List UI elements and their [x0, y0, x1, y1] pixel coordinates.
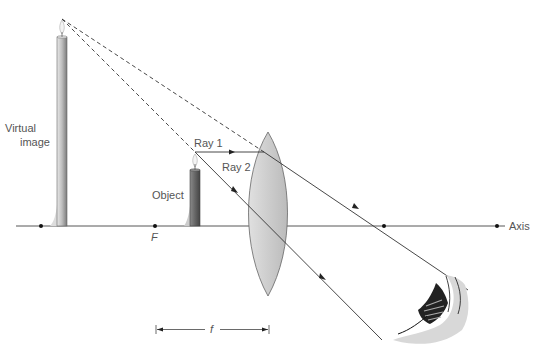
- ray-2: [195, 152, 382, 340]
- object-candle: [184, 154, 200, 226]
- ray-diagram: Virtual image Object Ray 1 Ray 2 F f Axi…: [0, 0, 551, 363]
- ray-1-label: Ray 1: [194, 137, 223, 150]
- virtual-image-label-line2: image: [20, 136, 50, 149]
- focal-length-label: f: [210, 323, 213, 336]
- focal-point-label: F: [151, 231, 158, 244]
- virtual-image-label-line1: Virtual: [5, 122, 36, 135]
- ray-2-label: Ray 2: [222, 161, 251, 174]
- focal-point-dot: [153, 224, 157, 228]
- virtual-image-candle: [50, 20, 67, 226]
- eye-icon: [393, 275, 468, 344]
- virtual-ray-extensions: [62, 19, 264, 152]
- converging-lens: [249, 132, 288, 296]
- axis-label: Axis: [509, 220, 530, 233]
- object-label: Object: [152, 189, 184, 202]
- diagram-canvas: [0, 0, 551, 363]
